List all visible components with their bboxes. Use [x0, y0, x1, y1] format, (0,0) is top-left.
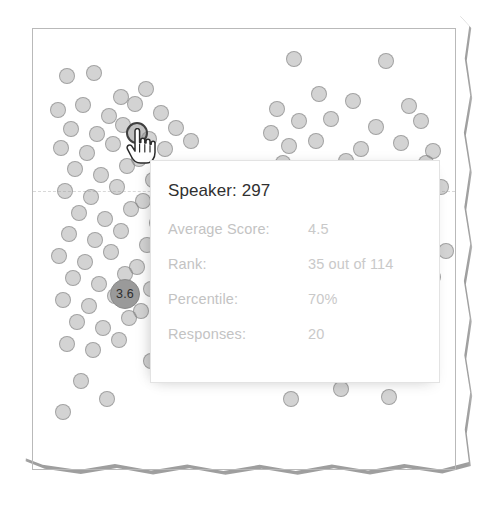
scatter-point[interactable]: [311, 86, 327, 102]
tooltip-row-label: Rank:: [168, 256, 308, 272]
scatter-point[interactable]: [109, 179, 125, 195]
scatter-point[interactable]: [93, 167, 109, 183]
scatter-point[interactable]: [65, 270, 81, 286]
speaker-tooltip: Speaker: 297 Average Score:4.5Rank:35 ou…: [150, 160, 440, 383]
tooltip-row-value: 20: [308, 326, 324, 342]
scatter-point[interactable]: [97, 211, 113, 227]
scatter-point[interactable]: [103, 244, 119, 260]
scatter-point[interactable]: [77, 254, 93, 270]
scatter-point[interactable]: [91, 276, 107, 292]
scatter-point[interactable]: [269, 101, 285, 117]
scatter-point[interactable]: [138, 81, 154, 97]
tooltip-row-label: Percentile:: [168, 291, 308, 307]
scatter-point[interactable]: [95, 320, 111, 336]
scatter-point[interactable]: [157, 141, 173, 157]
tooltip-title: Speaker: 297: [168, 181, 421, 201]
scatter-point[interactable]: [63, 121, 79, 137]
tooltip-row-value: 4.5: [308, 221, 329, 237]
scatter-point[interactable]: [168, 120, 184, 136]
scatter-point[interactable]: [81, 298, 97, 314]
scatter-point[interactable]: [281, 138, 297, 154]
screenshot-root: 3.6 Speaker: 297 Average Score:4.5Rank:3…: [0, 0, 498, 515]
scatter-point[interactable]: [183, 133, 199, 149]
scatter-point[interactable]: [55, 404, 71, 420]
tooltip-row-value: 70%: [308, 291, 337, 307]
scatter-point[interactable]: [153, 105, 169, 121]
scatter-point[interactable]: [291, 113, 307, 129]
scatter-point[interactable]: [126, 122, 148, 144]
tooltip-row-label: Responses:: [168, 326, 308, 342]
scatter-point[interactable]: [89, 126, 105, 142]
tooltip-row: Average Score:4.5: [168, 221, 421, 237]
scatter-point[interactable]: [378, 53, 394, 69]
scatter-point[interactable]: [105, 136, 121, 152]
scatter-point[interactable]: [61, 226, 77, 242]
tooltip-row: Percentile:70%: [168, 291, 421, 307]
scatter-point[interactable]: [127, 96, 143, 112]
scatter-point[interactable]: [393, 135, 409, 151]
tooltip-row-value: 35 out of 114: [308, 256, 394, 272]
scatter-point[interactable]: [323, 111, 339, 127]
tooltip-row-label: Average Score:: [168, 221, 308, 237]
scatter-point[interactable]: [79, 145, 95, 161]
scatter-point-highlighted[interactable]: 3.6: [110, 279, 140, 309]
tooltip-row: Rank:35 out of 114: [168, 256, 421, 272]
scatter-point[interactable]: [263, 125, 279, 141]
scatter-point[interactable]: [99, 391, 115, 407]
scatter-point[interactable]: [113, 223, 129, 239]
scatter-point[interactable]: [67, 161, 83, 177]
scatter-point[interactable]: [73, 373, 89, 389]
scatter-point[interactable]: [308, 133, 324, 149]
scatter-point[interactable]: [86, 65, 102, 81]
scatter-point[interactable]: [51, 248, 67, 264]
scatter-point[interactable]: [85, 342, 101, 358]
scatter-point[interactable]: [438, 243, 454, 259]
scatter-point[interactable]: [55, 292, 71, 308]
scatter-point[interactable]: [283, 391, 299, 407]
scatter-point[interactable]: [71, 205, 87, 221]
scatter-point[interactable]: [401, 98, 417, 114]
scatter-point[interactable]: [50, 102, 66, 118]
tooltip-row: Responses:20: [168, 326, 421, 342]
scatter-point[interactable]: [69, 314, 85, 330]
scatter-point[interactable]: [59, 68, 75, 84]
scatter-point[interactable]: [123, 201, 139, 217]
scatter-point[interactable]: [413, 113, 429, 129]
scatter-point[interactable]: [111, 332, 127, 348]
scatter-point[interactable]: [333, 381, 349, 397]
scatter-point[interactable]: [83, 189, 99, 205]
tooltip-rows: Average Score:4.5Rank:35 out of 114Perce…: [168, 221, 421, 342]
scatter-point[interactable]: [286, 51, 302, 67]
scatter-point[interactable]: [57, 183, 73, 199]
scatter-point[interactable]: [59, 336, 75, 352]
scatter-point[interactable]: [368, 119, 384, 135]
scatter-point[interactable]: [53, 140, 69, 156]
scatter-point[interactable]: [75, 97, 91, 113]
scatter-point[interactable]: [121, 310, 137, 326]
scatter-point[interactable]: [353, 141, 369, 157]
scatter-point[interactable]: [345, 93, 361, 109]
scatter-point[interactable]: [381, 389, 397, 405]
scatter-point[interactable]: [119, 158, 135, 174]
scatter-point[interactable]: [87, 232, 103, 248]
